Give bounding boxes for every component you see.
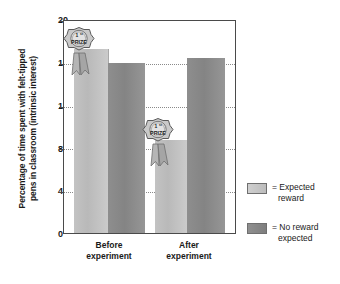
x-label-after-line-1: After [153,240,225,251]
prize-ribbon-icon-after: 1 st PRIZE [141,116,175,168]
legend: = Expected reward = No reward expected [247,182,339,262]
legend-label-expected-reward-line-1: = Expected [272,182,315,192]
legend-label-expected-reward-line-2: reward [272,193,315,204]
prize-ribbon-icon-before: 1 st PRIZE [62,25,96,77]
x-label-before-line-2: experiment [73,251,145,262]
bar-before-no-reward-expected [108,63,145,233]
y-axis-title: Percentage of time spent with felt-tippe… [17,9,38,249]
legend-label-no-reward-expected: = No reward expected [272,222,319,244]
x-label-after-line-2: experiment [153,251,225,262]
legend-label-no-reward-expected-line-2: expected [272,233,319,244]
x-axis-label-after-experiment: After experiment [153,240,225,262]
legend-label-no-reward-expected-line-1: = No reward [272,222,319,232]
svg-text:PRIZE: PRIZE [71,39,87,45]
legend-label-expected-reward: = Expected reward [272,182,315,204]
legend-item-expected-reward: = Expected reward [247,182,339,204]
bar-chart-figure: Percentage of time spent with felt-tippe… [0,0,340,284]
legend-swatch-expected-reward [247,183,267,194]
legend-swatch-no-reward-expected [247,223,267,234]
svg-text:1: 1 [76,32,79,38]
legend-item-no-reward-expected: = No reward expected [247,222,339,244]
x-axis-label-before-experiment: Before experiment [73,240,145,262]
svg-text:PRIZE: PRIZE [150,130,166,136]
y-axis-title-line-2: pens in classroom (intrinsic interest) [27,9,38,249]
bar-after-no-reward-expected [187,58,225,233]
y-axis-title-line-1: Percentage of time spent with felt-tippe… [17,9,28,249]
svg-text:1: 1 [155,123,158,129]
x-label-before-line-1: Before [73,240,145,251]
